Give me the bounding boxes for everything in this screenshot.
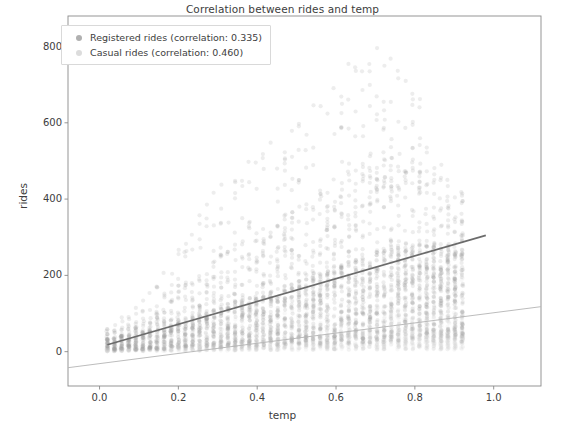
x-tick-label: 0.4: [237, 392, 277, 403]
chart-figure: Correlation between rides and temp rides…: [0, 0, 565, 428]
circle-icon: [76, 35, 82, 41]
x-tick-label: 0.6: [316, 392, 356, 403]
x-tick-label: 0.2: [158, 392, 198, 403]
legend-item[interactable]: Casual rides (correlation: 0.460): [68, 45, 262, 60]
y-tick-label: 0: [22, 346, 62, 357]
y-tick-label: 200: [22, 269, 62, 280]
circle-icon: [76, 50, 82, 56]
legend-item[interactable]: Registered rides (correlation: 0.335): [68, 30, 262, 45]
legend-marker-icon: [68, 50, 90, 56]
y-tick-label: 600: [22, 117, 62, 128]
y-tick-label: 400: [22, 193, 62, 204]
x-axis-label: temp: [0, 409, 565, 421]
legend-item-label: Casual rides (correlation: 0.460): [90, 47, 243, 58]
legend-marker-icon: [68, 35, 90, 41]
legend-item-label: Registered rides (correlation: 0.335): [90, 32, 262, 43]
x-tick-label: 1.0: [474, 392, 514, 403]
x-tick-label: 0.8: [395, 392, 435, 403]
registered-points-layer: [104, 46, 465, 352]
x-tick-label: 0.0: [80, 392, 120, 403]
chart-legend: Registered rides (correlation: 0.335)Cas…: [61, 25, 271, 65]
y-tick-label: 800: [22, 41, 62, 52]
